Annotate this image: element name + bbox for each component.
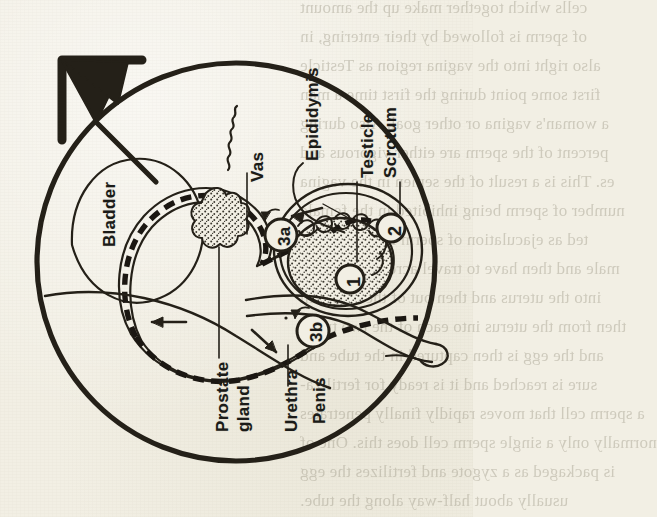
mars-arrow	[62, 60, 156, 182]
penis-dorsal-outline	[246, 296, 436, 344]
label-prostate-gland-line2: gland	[234, 385, 254, 432]
label-testicle: Testicle	[358, 114, 378, 178]
marker-2-text: 2	[385, 226, 406, 236]
label-bladder: Bladder	[100, 182, 120, 247]
marker-3b-text: 3b	[307, 322, 327, 342]
penis-glans	[420, 344, 448, 367]
marker-3a-text: 3a	[275, 226, 295, 246]
label-scrotum: Scrotum	[381, 107, 401, 178]
label-epididymis: Epididymis	[303, 67, 323, 161]
bladder-outline	[72, 159, 203, 303]
label-penis: Penis	[310, 377, 330, 424]
seminal-vesicle-squiggle	[227, 106, 237, 170]
label-vas: Vas	[248, 152, 268, 182]
marker-1-text: 1	[344, 277, 365, 287]
label-prostate-gland-line1: Prostate	[213, 362, 233, 432]
label-urethra: Urethra	[282, 369, 302, 432]
